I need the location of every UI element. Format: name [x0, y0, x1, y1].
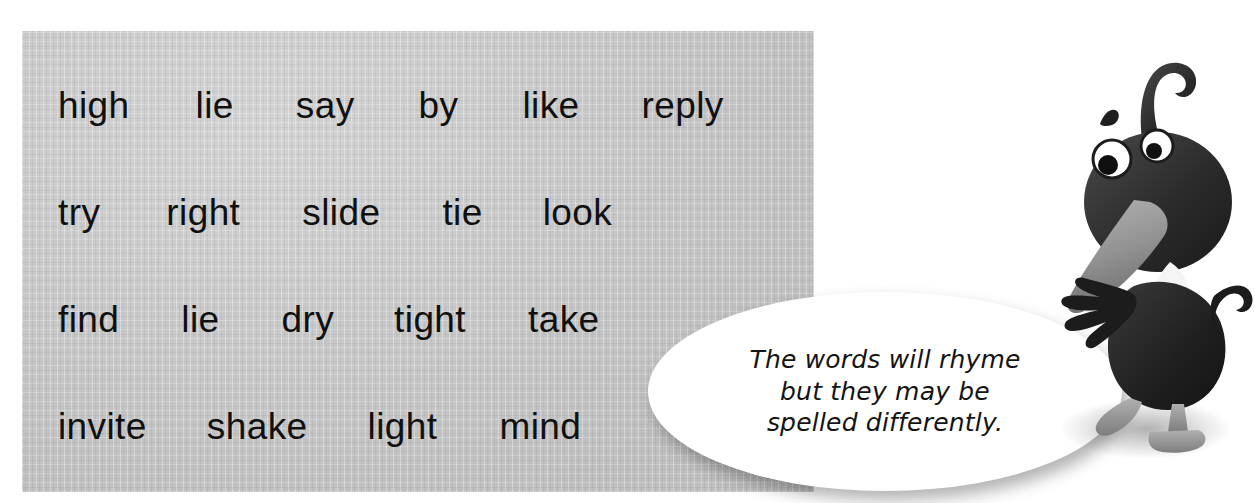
word-row: try right slide tie look [22, 186, 814, 238]
word-item[interactable]: try [58, 194, 100, 231]
word-item[interactable]: high [58, 87, 130, 124]
word-item[interactable]: lie [181, 301, 219, 338]
word-row: high lie say by like reply [22, 79, 814, 131]
duck-pupil-left [1098, 155, 1118, 175]
duck-pupil-right [1146, 143, 1162, 159]
duck-character [1038, 24, 1255, 474]
duck-shadow [1060, 399, 1232, 459]
word-item[interactable]: look [543, 194, 612, 231]
word-item[interactable]: take [528, 301, 600, 338]
speech-bubble-line: but they may be [780, 376, 990, 408]
word-item[interactable]: by [419, 87, 459, 124]
eyebrow-tuft-icon [1100, 110, 1119, 126]
word-item[interactable]: light [368, 408, 438, 445]
word-item[interactable]: right [166, 194, 240, 231]
word-item[interactable]: like [522, 87, 579, 124]
word-item[interactable]: tie [442, 194, 482, 231]
word-item[interactable]: reply [642, 87, 724, 124]
word-item[interactable]: find [58, 301, 119, 338]
word-item[interactable]: slide [302, 194, 380, 231]
topknot-feather-icon [1141, 63, 1196, 140]
word-item[interactable]: dry [281, 301, 334, 338]
word-item[interactable]: mind [499, 408, 581, 445]
word-item[interactable]: lie [196, 87, 234, 124]
word-item[interactable]: tight [394, 301, 466, 338]
speech-bubble-line: spelled differently. [767, 407, 1003, 439]
word-item[interactable]: shake [207, 408, 308, 445]
speech-bubble-line: The words will rhyme [749, 344, 1020, 376]
word-item[interactable]: invite [58, 408, 147, 445]
word-item[interactable]: say [296, 87, 355, 124]
